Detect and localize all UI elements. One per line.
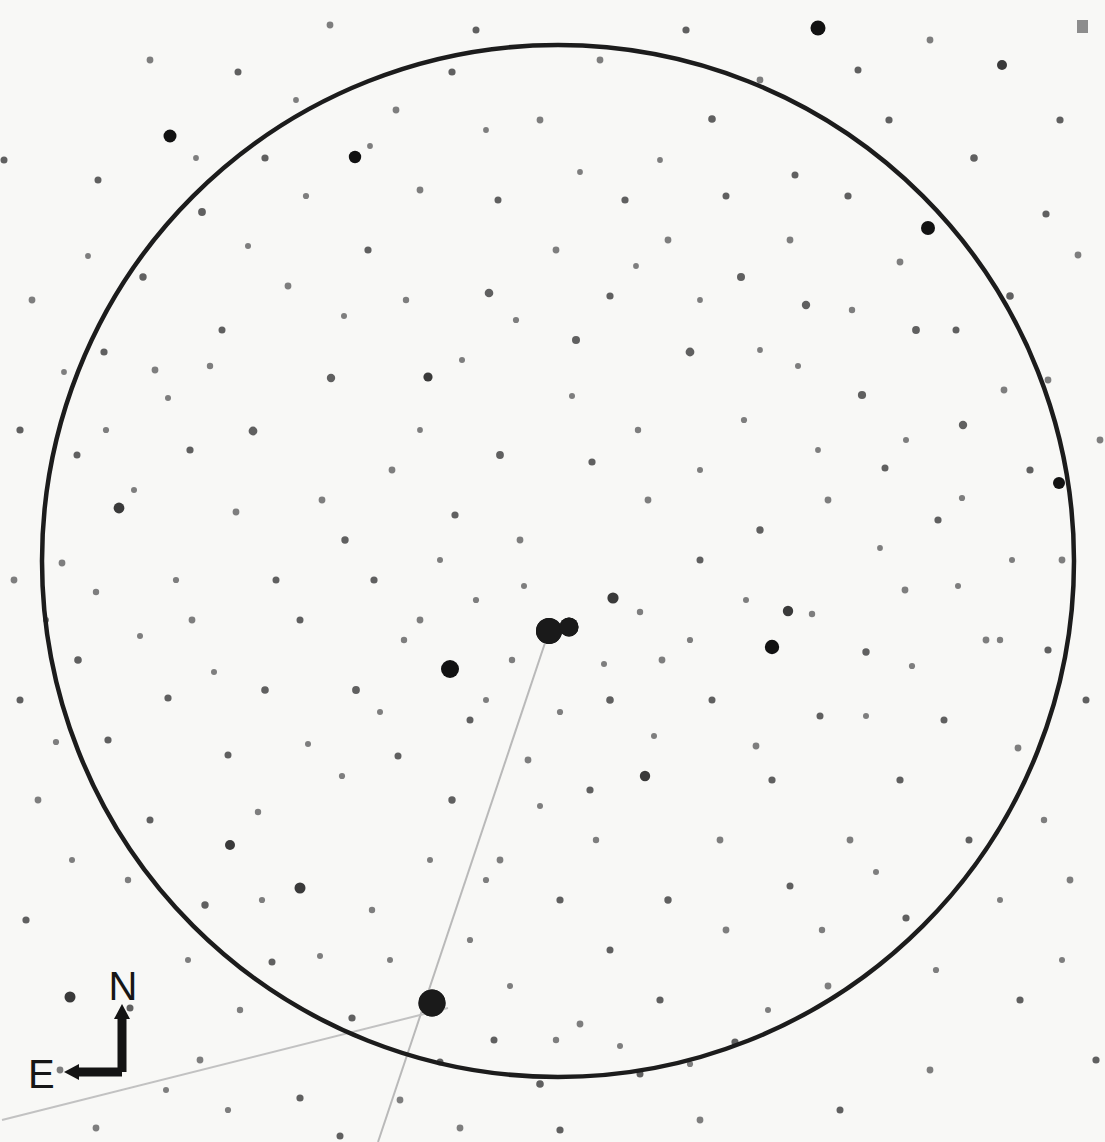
star-point: [557, 709, 563, 715]
star-point: [29, 297, 36, 304]
star-point: [737, 273, 745, 281]
star-point: [377, 709, 383, 715]
star-point: [273, 577, 280, 584]
star-point: [245, 243, 251, 249]
star-point: [165, 395, 171, 401]
star-point: [147, 57, 154, 64]
sky-field-svg: N E: [0, 0, 1105, 1142]
star-point: [556, 1126, 563, 1133]
star-point: [912, 326, 920, 334]
star-point: [955, 583, 961, 589]
star-point: [341, 536, 348, 543]
star-point: [743, 597, 749, 603]
star-point: [909, 663, 915, 669]
star-point: [235, 69, 242, 76]
star-point: [225, 752, 232, 759]
star-point: [697, 557, 704, 564]
star-point: [255, 809, 261, 815]
star-point: [53, 739, 59, 745]
star-point: [941, 717, 948, 724]
star-point: [317, 953, 323, 959]
star-point: [1006, 292, 1014, 300]
star-point: [249, 427, 258, 436]
star-point: [403, 297, 409, 303]
star-point: [825, 497, 832, 504]
star-point: [339, 773, 345, 779]
star-point: [601, 661, 607, 667]
chart-background: [0, 0, 1105, 1142]
star-point: [651, 733, 657, 739]
star-point: [633, 263, 639, 269]
star-point: [259, 897, 265, 903]
star-point: [22, 916, 29, 923]
star-point: [364, 246, 371, 253]
star-point: [139, 273, 146, 280]
star-point: [537, 117, 544, 124]
star-point: [507, 983, 513, 989]
star-point: [491, 1037, 498, 1044]
star-point: [59, 560, 66, 567]
star-point: [509, 657, 515, 663]
star-point: [717, 837, 724, 844]
star-point: [1, 157, 8, 164]
star-point: [497, 857, 504, 864]
star-point: [577, 1021, 584, 1028]
star-point: [401, 637, 407, 643]
star-point: [65, 992, 76, 1003]
star-point: [11, 577, 18, 584]
star-point: [207, 363, 213, 369]
star-point: [198, 208, 206, 216]
star-point: [1015, 745, 1022, 752]
star-point: [93, 589, 99, 595]
star-point: [100, 348, 107, 355]
scale-tick-mark: [1077, 20, 1088, 33]
star-point: [783, 606, 793, 616]
star-point: [1075, 252, 1082, 259]
star-point: [397, 1097, 404, 1104]
star-point: [1067, 877, 1074, 884]
star-point: [189, 617, 196, 624]
star-point: [352, 686, 360, 694]
star-point: [855, 67, 862, 74]
star-point: [219, 327, 226, 334]
star-point: [933, 967, 939, 973]
star-point: [1009, 557, 1015, 563]
star-point: [817, 713, 824, 720]
star-point: [959, 421, 967, 429]
star-point: [682, 26, 689, 33]
star-point: [483, 877, 489, 883]
star-point: [125, 877, 131, 883]
star-point: [69, 857, 75, 863]
star-point: [1041, 817, 1047, 823]
star-point: [593, 837, 599, 843]
star-point: [164, 694, 171, 701]
star-point: [348, 1014, 355, 1021]
star-point: [1083, 697, 1090, 704]
star-point: [858, 391, 866, 399]
star-point: [261, 686, 269, 694]
star-point: [927, 1067, 934, 1074]
star-point: [768, 776, 775, 783]
star-point: [16, 426, 23, 433]
star-point: [792, 172, 799, 179]
star-point: [966, 837, 973, 844]
star-point: [303, 193, 309, 199]
star-point: [186, 446, 193, 453]
star-point: [847, 837, 854, 844]
star-point: [844, 192, 851, 199]
star-point: [483, 127, 489, 133]
star-point: [137, 633, 143, 639]
star-point: [319, 497, 326, 504]
star-point: [553, 1037, 559, 1043]
star-point: [753, 743, 760, 750]
star-point: [597, 57, 604, 64]
star-point: [687, 637, 693, 643]
star-point: [85, 253, 91, 259]
star-point: [1053, 477, 1065, 489]
star-point: [496, 451, 504, 459]
star-point: [903, 437, 909, 443]
star-point: [959, 495, 965, 501]
star-point: [686, 348, 695, 357]
star-point: [902, 914, 909, 921]
star-point: [537, 803, 543, 809]
